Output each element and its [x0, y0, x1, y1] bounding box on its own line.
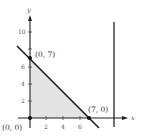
x-axis-label: x: [131, 114, 135, 122]
vertex-0-7: [28, 56, 32, 60]
y-tick-2: 2: [21, 97, 25, 104]
x-axis-arrow-icon: [122, 116, 128, 120]
feasible-region-diagram: x y 2 4 6 2 4 6 10 (0, 0) (0, 7) (7, 0): [0, 0, 142, 140]
y-tick-4: 4: [21, 80, 25, 87]
y-tick-6: 6: [21, 63, 25, 70]
vertex-7-0: [87, 116, 91, 120]
y-axis-arrow-icon: [28, 15, 32, 21]
x-tick-4: 4: [61, 123, 65, 130]
y-axis-label: y: [26, 6, 31, 14]
vertex-origin: [28, 116, 32, 120]
y-tick-10: 10: [18, 28, 26, 35]
x-tick-2: 2: [44, 123, 48, 130]
vertex-label-7-0: (7, 0): [88, 105, 108, 114]
vertex-label-0-7: (0, 7): [35, 50, 55, 59]
x-tick-6: 6: [78, 123, 82, 130]
vertex-label-origin: (0, 0): [2, 123, 22, 132]
